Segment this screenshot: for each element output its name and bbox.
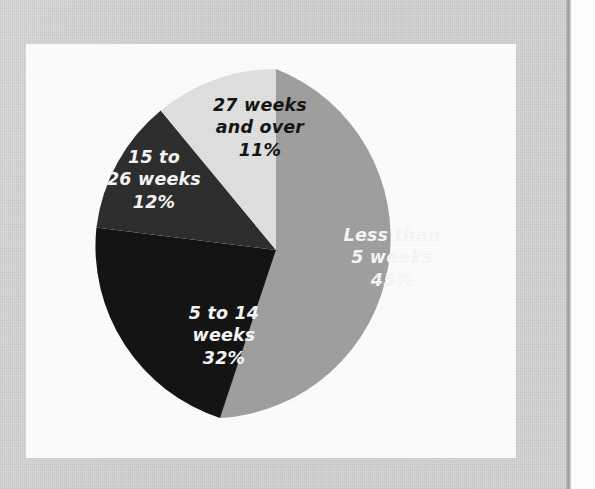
page-margin-white <box>571 0 595 489</box>
page-root: Less than 5 weeks 45% 5 to 14 weeks 32% … <box>0 0 595 489</box>
chart-panel: Less than 5 weeks 45% 5 to 14 weeks 32% … <box>26 44 516 458</box>
pie-chart-svg <box>26 44 516 458</box>
pie-chart: Less than 5 weeks 45% 5 to 14 weeks 32% … <box>26 44 516 458</box>
